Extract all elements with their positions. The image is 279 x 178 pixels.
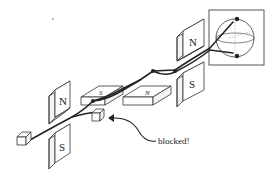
stern-gerlach-diagram: ' N S N S	[0, 0, 279, 178]
bloch-sphere-inset	[209, 10, 264, 65]
beam-blocker	[92, 109, 104, 121]
magnet-sg1-north: N	[49, 81, 70, 124]
magnet-label: S	[189, 78, 195, 90]
magnet-label: N	[189, 36, 197, 48]
split-point	[91, 99, 95, 103]
magnet-label: N	[144, 89, 150, 97]
magnet-sg2-north: N	[123, 86, 171, 105]
blocked-annotation: blocked!	[108, 114, 190, 146]
magnet-label: S	[59, 141, 65, 153]
arrowhead-icon	[108, 114, 114, 122]
magnet-label: N	[59, 95, 67, 107]
stray-mark: '	[52, 16, 54, 26]
spin-down-point	[235, 54, 239, 58]
arrow-icon	[112, 118, 156, 141]
split-point	[151, 69, 155, 73]
blocked-label: blocked!	[158, 136, 190, 146]
magnet-sg2-south: S	[81, 86, 123, 105]
particle-source	[17, 132, 31, 145]
magnet-label: S	[99, 89, 103, 97]
spin-up-point	[235, 17, 239, 21]
magnet-sg1-south: S	[49, 124, 70, 169]
split-point	[173, 69, 177, 73]
